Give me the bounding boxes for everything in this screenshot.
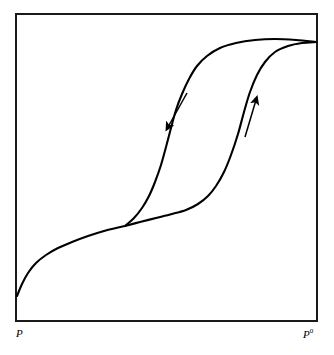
- x-axis-end-label-superscript: 0: [310, 327, 314, 335]
- shared-low-pressure-curve: [17, 226, 125, 296]
- adsorption-branch-curve: [125, 42, 316, 226]
- x-axis-start-label-text: P: [16, 327, 23, 339]
- x-axis-start-label: P: [16, 328, 23, 339]
- desorption-direction-arrow-icon: [168, 93, 187, 127]
- x-axis-end-label: P0: [303, 328, 313, 340]
- desorption-branch-curve: [125, 39, 316, 226]
- x-axis-end-label-base: P: [303, 328, 310, 340]
- plot-canvas: [0, 0, 334, 355]
- isotherm-figure: P P0: [0, 0, 334, 355]
- plot-frame-border: [16, 14, 317, 321]
